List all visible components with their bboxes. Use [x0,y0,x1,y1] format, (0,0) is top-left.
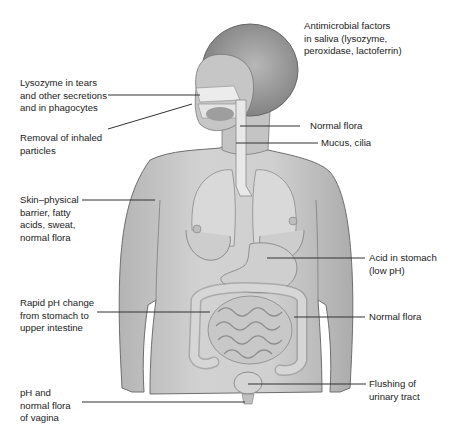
label-lysozyme-tears: Lysozyme in tears and other secretions a… [20,77,107,115]
label-urinary-tract: Flushing of urinary tract [369,378,420,403]
label-vagina: pH and normal flora of vagina [20,387,71,425]
label-acid-stomach: Acid in stomach (low pH) [369,252,437,277]
label-normal-flora-throat: Normal flora [310,120,362,133]
label-saliva: Antimicrobial factors in saliva (lysozym… [304,20,402,58]
leader-line-inhaled [108,104,192,129]
label-rapid-ph-change: Rapid pH change from stomach to upper in… [20,297,94,335]
label-normal-flora-intestine: Normal flora [369,311,421,324]
diagram-canvas: Antimicrobial factors in saliva (lysozym… [0,0,453,431]
label-skin: Skin–physical barrier, fatty acids, swea… [20,194,79,244]
small-intestine-icon [208,296,292,364]
label-inhaled-particles: Removal of inhaled particles [20,132,102,157]
bladder-icon [234,372,262,394]
label-mucus-cilia: Mucus, cilia [321,137,371,150]
